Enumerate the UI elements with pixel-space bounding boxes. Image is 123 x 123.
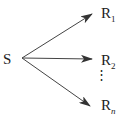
source-label-text: S (3, 51, 11, 67)
target-label-text: R (101, 5, 111, 21)
target-node-rn: Rn (101, 98, 116, 116)
vertical-ellipsis: ⋮ (95, 72, 108, 78)
arrow-to-rn (22, 58, 90, 106)
target-subscript: 2 (111, 61, 116, 71)
target-subscript: 1 (111, 14, 116, 24)
source-node-label: S (3, 52, 11, 67)
target-node-r1: R1 (101, 6, 116, 24)
arrow-to-r1 (22, 14, 92, 58)
target-subscript: n (111, 106, 116, 116)
target-label-text: R (101, 97, 111, 113)
fan-out-diagram: S R1 R2 ⋮ Rn (0, 0, 123, 123)
ellipsis-text: ⋮ (95, 67, 108, 82)
arrow-to-r2 (22, 58, 92, 59)
target-label-text: R (101, 52, 111, 68)
